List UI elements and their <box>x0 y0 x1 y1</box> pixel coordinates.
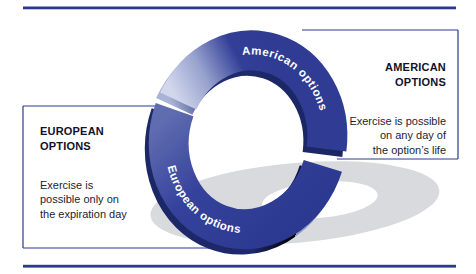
american-options-description: Exercise is possible on any day of the o… <box>306 114 446 157</box>
top-rule <box>23 7 456 10</box>
american-options-box: AMERICAN OPTIONS Exercise is possible on… <box>306 46 446 171</box>
european-options-title: EUROPEAN OPTIONS <box>40 124 175 153</box>
bottom-rule <box>23 265 456 268</box>
american-options-title: AMERICAN OPTIONS <box>306 60 446 89</box>
figure-canvas: American options European options EUROPE… <box>0 0 476 274</box>
european-options-box: EUROPEAN OPTIONS Exercise is possible on… <box>40 110 175 235</box>
european-options-description: Exercise is possible only on the expirat… <box>40 178 175 221</box>
